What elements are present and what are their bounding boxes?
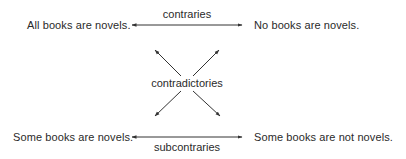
contradictories-arrow-upper-left (155, 50, 181, 76)
proposition-e-universal-negative: No books are novels. (254, 19, 359, 32)
proposition-i-particular-affirmative: Some books are novels. (13, 131, 133, 144)
proposition-a-universal-affirmative: All books are novels. (27, 19, 131, 32)
contraries-label: contraries (163, 8, 211, 21)
proposition-o-particular-negative: Some books are not novels. (254, 131, 393, 144)
contradictories-label: contradictories (151, 77, 223, 90)
contradictories-arrow-lower-left (155, 91, 181, 116)
contradictories-arrow-lower-right (193, 91, 220, 116)
square-of-opposition-diagram: All books are novels. No books are novel… (0, 0, 406, 159)
subcontraries-label: subcontraries (154, 141, 220, 154)
contradictories-arrow-upper-right (193, 50, 219, 76)
